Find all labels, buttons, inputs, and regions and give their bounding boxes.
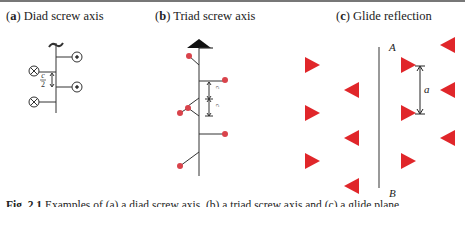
glide-label-b: B	[389, 187, 396, 199]
glide-reflection-diagram	[305, 37, 455, 194]
glide-label-a-upper: A	[388, 41, 396, 53]
diad-screw-axis-diagram	[29, 43, 82, 113]
triangles	[305, 37, 455, 194]
triad-spacing-numerator: c	[214, 86, 222, 90]
triad-atoms	[177, 53, 228, 169]
figure-caption: Fig. 2.1 Examples of (a) a diad screw ax…	[6, 199, 399, 207]
triad-spacing-numerator: c	[214, 104, 222, 108]
diad-spacing-denominator: 2	[41, 80, 45, 89]
diad-spacing-numerator: c	[41, 71, 45, 80]
glide-translation-label: a	[424, 83, 430, 95]
triad-symbol-icon	[187, 39, 211, 48]
